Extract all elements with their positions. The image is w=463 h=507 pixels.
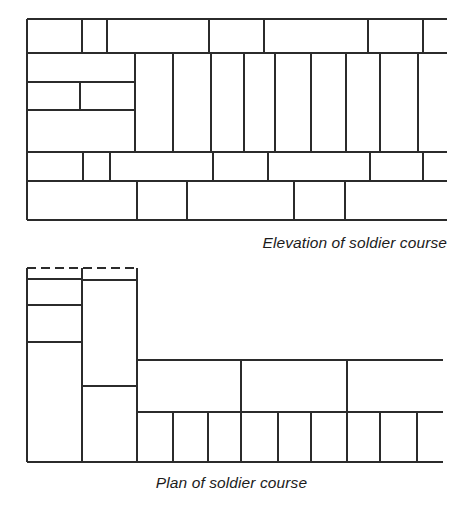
plan-diagram (27, 268, 443, 462)
soldier-course-figure: Elevation of soldier course Plan of sold… (0, 0, 463, 507)
elevation-diagram (27, 19, 447, 220)
elevation-caption: Elevation of soldier course (0, 234, 447, 252)
plan-caption: Plan of soldier course (0, 474, 463, 492)
brickwork-drawing (0, 0, 463, 507)
